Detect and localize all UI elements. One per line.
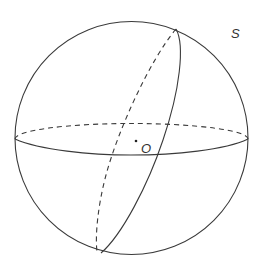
sphere-diagram: O S xyxy=(0,0,259,269)
sphere-label: S xyxy=(231,26,240,41)
center-label: O xyxy=(141,141,151,156)
center-point xyxy=(135,140,138,143)
equator-front xyxy=(15,139,248,155)
sphere-outline xyxy=(15,22,248,255)
equator-back xyxy=(15,124,248,140)
